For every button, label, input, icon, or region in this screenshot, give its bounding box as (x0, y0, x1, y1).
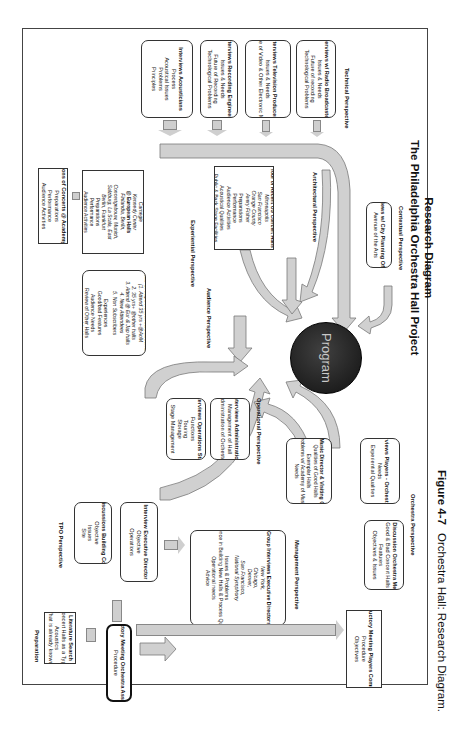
node-players-sections: Group Interviews Players - Orchestra Sec… (360, 438, 400, 504)
node-hall-observations: Observation of Concerts @ American Halls… (82, 170, 144, 254)
label-orchestra-perspective: Orchestra Perspective (410, 494, 416, 556)
label-management-perspective: Management Perspective (294, 540, 300, 610)
node-executive-director: Interview Executive Director Objective O… (120, 502, 158, 582)
figure-caption: Figure 4-7Orchestra Hall: Research Diagr… (436, 470, 448, 712)
label-architectural-perspective: Architectural Perspective (312, 172, 318, 242)
node-administration: Interviews Administration Management of … (210, 398, 250, 460)
node-operations-staff: Interviews Operations Staff Functions To… (166, 398, 206, 460)
node-building-committee: Group Discussions Building Committee Obj… (74, 502, 112, 564)
node-city-planning: Interviews w/ City Planning Officials Av… (366, 202, 392, 268)
node-academy-observations: Observations of Concerts @ Academy of Mu… (38, 168, 68, 244)
node-orchestra-members: Group Discussion Orchestra Members Good … (364, 520, 404, 590)
label-preparation: Preparation (34, 630, 40, 662)
label-audience-perspective: Audience Perspective (206, 288, 212, 348)
node-focus-groups: Focus Groups Audience/Subscribers (1. At… (82, 270, 146, 356)
node-us-hall-tour: Tour of Recent US Concert Halls Minneapo… (214, 166, 274, 250)
node-literature-search: Literature Search Concert Halls as a Typ… (44, 612, 76, 664)
node-group-executive-directors: Group Interviews Executive Directors New… (190, 530, 286, 626)
rotated-diagram: Interviews Acousticians Process Acoustic… (0, 0, 452, 729)
node-intro-players-committee: Introductory Meeting Players Committee P… (346, 610, 382, 688)
label-experiential-perspective: Experiential Perspective (190, 220, 196, 287)
label-contextual-perspective: Contextual Perspective (398, 206, 404, 270)
label-operational-perspective: Operational Perspective (256, 398, 262, 464)
arrow-to-players-committee (136, 624, 336, 636)
node-music-director: Interviews Music Director & Visiting Con… (286, 438, 332, 504)
label-tpo-perspective: TPO Perspective (58, 522, 64, 568)
program-node: Program (290, 322, 362, 394)
node-intro-orchestra-association: Introductory Meeting Orchestra Associati… (106, 624, 132, 702)
diagram-title: Research Diagram The Philadelphia Orches… (407, 140, 436, 355)
